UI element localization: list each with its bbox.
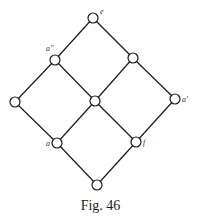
node-a [52,138,62,148]
node-n5 [90,96,100,106]
node-label-a: a [46,139,50,148]
node-a1 [170,94,180,104]
edge-n5-a [57,101,95,143]
edge-e-a2 [55,18,93,60]
edge-a2-n5 [55,60,95,101]
figure-caption: Fig. 46 [0,198,201,214]
edge-a-n9 [57,143,97,185]
edge-n4-a [15,102,57,143]
node-n4 [10,97,20,107]
node-label-e: e [100,7,104,16]
node-label-a2: a'' [46,44,54,53]
edge-e-n3 [93,18,133,58]
node-a2 [50,55,60,65]
edge-n3-n5 [95,58,133,101]
node-f [131,137,141,147]
node-e [88,13,98,23]
node-label-f: f [143,138,147,147]
edge-n5-f [95,101,136,142]
node-label-a1: a' [182,95,188,104]
edge-f-n9 [97,142,136,185]
lattice-diagram: ea''a'af [0,0,201,217]
edge-a1-f [136,99,175,142]
labels-group: ea''a'af [46,7,188,148]
node-n3 [128,53,138,63]
edge-n3-a1 [133,58,175,99]
node-n9 [92,180,102,190]
nodes-group [10,13,180,190]
edge-a2-n4 [15,60,55,102]
